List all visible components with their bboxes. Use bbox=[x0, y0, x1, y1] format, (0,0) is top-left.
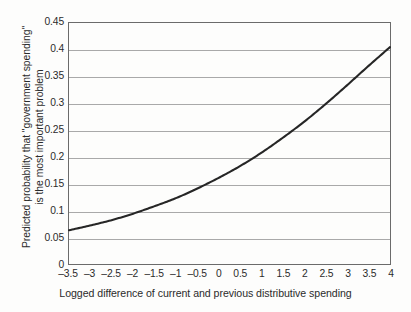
y-axis-tick-labels: 00.050.10.150.20.250.30.350.40.45 bbox=[28, 0, 64, 312]
x-axis-tick-label: 4 bbox=[374, 268, 408, 280]
y-axis-tick-label: 0.05 bbox=[28, 233, 64, 243]
predicted-probability-line bbox=[69, 47, 390, 230]
y-axis-tick-label: 0.3 bbox=[28, 98, 64, 108]
y-axis-tick-label: 0.45 bbox=[28, 17, 64, 27]
chart-figure: Predicted probability that "government s… bbox=[0, 0, 411, 312]
y-axis-tick-label: 0.1 bbox=[28, 206, 64, 216]
y-axis-tick-label: 0.4 bbox=[28, 44, 64, 54]
x-axis-tick-labels: –3.5–3–2.5–2–1.5–1–0.500.511.522.533.54 bbox=[0, 268, 411, 282]
y-axis-tick-label: 0.35 bbox=[28, 71, 64, 81]
x-axis-label: Logged difference of current and previou… bbox=[0, 287, 411, 299]
y-axis-tick-label: 0.25 bbox=[28, 125, 64, 135]
y-axis-tick-label: 0.2 bbox=[28, 152, 64, 162]
plot-area bbox=[68, 22, 391, 265]
data-curve bbox=[69, 23, 390, 264]
y-axis-tick-label: 0.15 bbox=[28, 179, 64, 189]
